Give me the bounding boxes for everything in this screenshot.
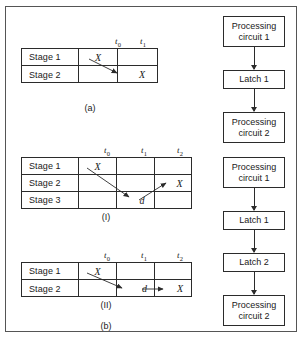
node-processing-circuit-2-top: Processing circuit 2 xyxy=(223,112,285,143)
cell-stage2-t0 xyxy=(79,66,118,83)
stage-label: Stage 1 xyxy=(22,158,79,174)
connector-arrow xyxy=(254,47,255,69)
cell-i-stage2-t2: X xyxy=(155,175,191,191)
caption-i: (I) xyxy=(76,212,136,222)
marker-x: X xyxy=(176,178,182,189)
table-row: Stage 2 d X xyxy=(22,280,191,297)
table-row: Stage 2 X xyxy=(22,175,191,192)
column-header-t0-a: t0 xyxy=(107,36,129,48)
cell-ii-stage2-t0 xyxy=(79,280,117,297)
node-line: circuit 1 xyxy=(238,32,269,43)
figure-canvas: t0 t1 Stage 1 X Stage 2 X xyxy=(0,0,303,339)
node-line: Processing xyxy=(232,21,277,32)
column-header-t1-ii: t1 xyxy=(133,250,155,262)
marker-x: X xyxy=(177,283,183,294)
cell-i-stage3-t0 xyxy=(79,192,117,208)
connector-arrow xyxy=(254,188,255,210)
table-row: Stage 1 X xyxy=(22,263,191,280)
cell-ii-stage2-t2: X xyxy=(155,280,191,297)
cell-i-stage2-t1 xyxy=(117,175,155,191)
column-header-t1-a: t1 xyxy=(132,36,154,48)
table-row: Stage 1 X xyxy=(22,158,191,175)
node-line: circuit 1 xyxy=(238,173,269,184)
stage-label: Stage 3 xyxy=(22,192,79,208)
marker-x: X xyxy=(95,52,101,63)
caption-ii: (II) xyxy=(76,300,136,310)
timing-table-i: Stage 1 X Stage 2 X Stage 3 xyxy=(21,157,192,209)
caption-b: (b) xyxy=(76,321,136,331)
node-line: Latch 1 xyxy=(239,74,269,85)
cell-ii-stage1-t1 xyxy=(117,263,155,279)
node-line: Processing xyxy=(232,300,277,311)
marker-d: d xyxy=(142,283,147,294)
cell-i-stage2-t0 xyxy=(79,175,117,191)
connector-arrow xyxy=(254,89,255,111)
marker-x: X xyxy=(94,161,100,172)
cell-i-stage3-t1: d xyxy=(117,192,155,208)
node-line: circuit 2 xyxy=(238,128,269,139)
node-line: Processing xyxy=(232,162,277,173)
marker-x: X xyxy=(94,266,100,277)
node-line: Latch 2 xyxy=(239,257,269,268)
cell-i-stage1-t1 xyxy=(117,158,155,174)
timing-table-ii: Stage 1 X Stage 2 d X xyxy=(21,262,192,297)
marker-d: d xyxy=(140,195,145,206)
node-latch-1-top: Latch 1 xyxy=(223,70,285,89)
timing-table-a: Stage 1 X Stage 2 X xyxy=(21,48,158,83)
cell-ii-stage2-t1: d xyxy=(117,280,155,297)
column-header-t2-ii: t2 xyxy=(169,250,191,262)
connector-arrow xyxy=(254,272,255,294)
node-line: Latch 1 xyxy=(239,215,269,226)
node-line: circuit 2 xyxy=(238,311,269,322)
node-processing-circuit-1-bottom: Processing circuit 1 xyxy=(223,157,285,188)
cell-stage2-t1: X xyxy=(118,66,157,83)
stage-label: Stage 2 xyxy=(22,280,79,297)
cell-i-stage1-t2 xyxy=(155,158,191,174)
column-header-t0-ii: t0 xyxy=(96,250,118,262)
marker-x: X xyxy=(139,69,145,80)
node-latch-2-bottom: Latch 2 xyxy=(223,253,285,272)
node-processing-circuit-1-top: Processing circuit 1 xyxy=(223,16,285,47)
stage-label: Stage 2 xyxy=(22,66,79,83)
cell-i-stage3-t2 xyxy=(155,192,191,208)
cell-stage1-t1 xyxy=(118,49,157,65)
stage-label: Stage 2 xyxy=(22,175,79,191)
cell-i-stage1-t0: X xyxy=(79,158,117,174)
column-header-t1-i: t1 xyxy=(133,145,155,157)
table-row: Stage 1 X xyxy=(22,49,157,66)
column-header-t0-i: t0 xyxy=(96,145,118,157)
node-latch-1-bottom: Latch 1 xyxy=(223,211,285,230)
table-row: Stage 2 X xyxy=(22,66,157,83)
table-row: Stage 3 d xyxy=(22,192,191,208)
stage-label: Stage 1 xyxy=(22,49,79,65)
cell-ii-stage1-t2 xyxy=(155,263,191,279)
connector-arrow xyxy=(254,230,255,252)
column-header-t2-i: t2 xyxy=(169,145,191,157)
cell-stage1-t0: X xyxy=(79,49,118,65)
node-line: Processing xyxy=(232,117,277,128)
stage-label: Stage 1 xyxy=(22,263,79,279)
cell-ii-stage1-t0: X xyxy=(79,263,117,279)
caption-a: (a) xyxy=(60,103,120,113)
node-processing-circuit-2-bottom: Processing circuit 2 xyxy=(223,295,285,326)
figure-frame: t0 t1 Stage 1 X Stage 2 X xyxy=(5,6,297,332)
